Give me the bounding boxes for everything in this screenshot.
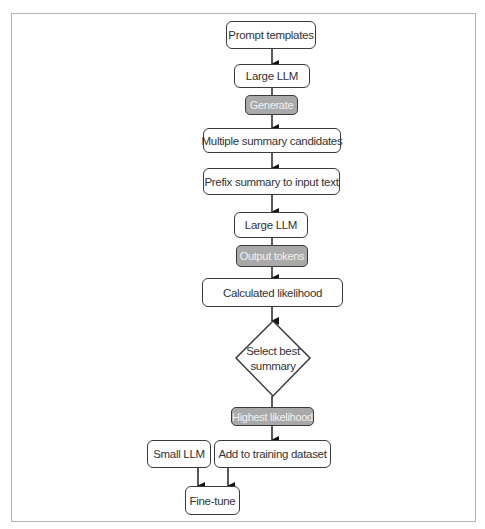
node-add-to-dataset: Add to training dataset [214, 440, 331, 468]
edge-label-output-tokens: Output tokens [236, 245, 308, 267]
node-prompt-templates: Prompt templates [226, 21, 316, 49]
node-prefix-summary: Prefix summary to input text [203, 168, 340, 195]
node-large-llm-1: Large LLM [234, 64, 310, 88]
edge-label-highest-likelihood: Highest likelihood [231, 407, 314, 426]
node-multiple-candidates: Multiple summary candidates [203, 128, 341, 153]
node-fine-tune: Fine-tune [185, 486, 240, 515]
node-small-llm: Small LLM [147, 440, 211, 468]
select-best-line1: Select best [246, 345, 300, 357]
node-large-llm-2: Large LLM [234, 212, 308, 238]
select-best-line2: summary [250, 360, 295, 372]
node-select-best-summary: Select bestsummary [236, 321, 310, 396]
node-calculated-likelihood: Calculated likelihood [202, 278, 343, 307]
edge-label-generate: Generate [245, 95, 298, 115]
